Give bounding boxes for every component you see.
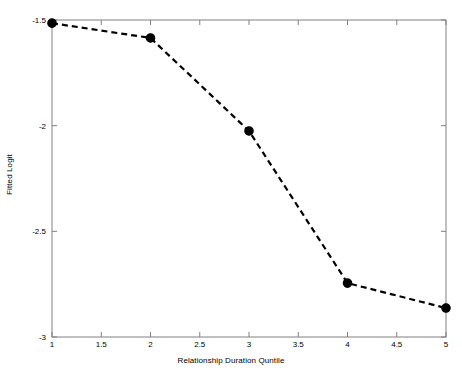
y-tick-label: -2.5: [6, 227, 46, 236]
x-axis-ticks: [52, 20, 446, 337]
x-tick-label: 3: [247, 340, 251, 349]
x-tick-label: 5: [444, 340, 448, 349]
y-axis-ticks: [52, 20, 446, 337]
data-line: [52, 23, 446, 308]
x-tick-label: 4.5: [391, 340, 402, 349]
y-axis-title: Fitted Logit: [5, 145, 14, 205]
x-tick-label: 2.5: [194, 340, 205, 349]
x-tick-label: 1: [50, 340, 54, 349]
x-tick-label: 4: [345, 340, 349, 349]
data-point-marker: [442, 304, 450, 312]
y-tick-label: -2: [6, 121, 46, 130]
x-tick-label: 2: [148, 340, 152, 349]
line-chart-plot: [0, 0, 462, 378]
plot-border: [52, 20, 446, 337]
x-tick-label: 1.5: [96, 340, 107, 349]
data-markers: [48, 19, 450, 312]
data-point-marker: [245, 127, 253, 135]
x-axis-title: Relationship Duration Quntile: [0, 356, 462, 365]
chart-figure: 11.522.533.544.55 -1.5-2-2.5-3 Relations…: [0, 0, 462, 378]
data-point-marker: [48, 19, 56, 27]
y-tick-label: -1.5: [6, 16, 46, 25]
y-tick-label: -3: [6, 333, 46, 342]
data-point-marker: [343, 279, 351, 287]
x-tick-label: 3.5: [293, 340, 304, 349]
data-point-marker: [146, 34, 154, 42]
